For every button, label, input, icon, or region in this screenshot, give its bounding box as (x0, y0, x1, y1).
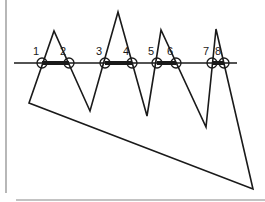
polygon-outline (29, 12, 253, 189)
polygon-line-intersection-diagram: 12345678 (0, 0, 265, 202)
intersection-label: 4 (123, 45, 129, 57)
intersection-label: 3 (96, 45, 102, 57)
polygon (29, 12, 253, 189)
intersection-label: 6 (167, 45, 173, 57)
intersection-label: 2 (60, 45, 66, 57)
intersection-label: 7 (203, 45, 209, 57)
intersection-label: 1 (33, 45, 39, 57)
intersection-label: 5 (148, 45, 154, 57)
intersection-label: 8 (215, 45, 221, 57)
